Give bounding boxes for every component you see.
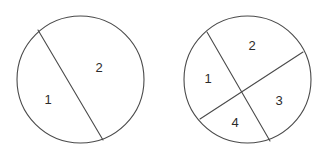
right-region-label-3: 3 xyxy=(275,93,282,108)
right-region-label-2: 2 xyxy=(248,38,255,53)
right-circle-group: 1 2 3 4 xyxy=(184,16,311,143)
figure-canvas: 1 2 1 2 3 4 xyxy=(0,0,329,156)
left-region-label-2: 2 xyxy=(95,60,102,75)
right-region-label-1: 1 xyxy=(204,71,211,86)
left-circle-group: 1 2 xyxy=(17,16,144,143)
left-circle-outline xyxy=(17,16,144,143)
right-circle-outline xyxy=(184,16,311,143)
right-region-label-4: 4 xyxy=(231,115,238,130)
left-region-label-1: 1 xyxy=(44,92,51,107)
circle-division-diagram: 1 2 1 2 3 4 xyxy=(0,0,329,156)
